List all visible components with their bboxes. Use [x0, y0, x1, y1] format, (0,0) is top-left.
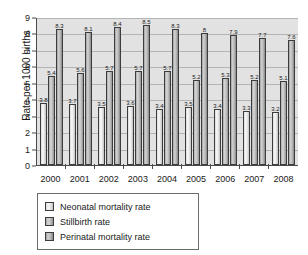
bar-value-label: 8.1 [84, 26, 92, 33]
y-tick-label: 8 [0, 29, 30, 39]
y-tick-label: 5 [0, 79, 30, 89]
x-tick-label: 2000 [36, 167, 65, 189]
bar-value-label: 8.4 [113, 21, 121, 28]
bar[interactable]: 3.4 [214, 109, 221, 165]
legend-label: Perinatal mortality rate [60, 232, 150, 242]
bar-value-label: 5.7 [105, 65, 113, 72]
bar-value-label: 5.7 [134, 65, 142, 72]
bar-value-label: 7.7 [258, 32, 266, 39]
x-tick-label: 2006 [211, 167, 240, 189]
bar-value-label: 3.5 [97, 101, 105, 108]
y-tick-label: 6 [0, 62, 30, 72]
bar[interactable]: 7.7 [259, 38, 266, 165]
bar[interactable]: 5.7 [135, 71, 142, 165]
y-tick-label: 7 [0, 46, 30, 56]
bar-value-label: 3.3 [242, 105, 250, 112]
y-axis-ticks: 0123456789 [0, 18, 36, 166]
bar-value-label: 5.3 [221, 72, 229, 79]
y-tick-label: 2 [0, 128, 30, 138]
bar[interactable]: 3.6 [127, 106, 134, 165]
x-tick-label: 2002 [94, 167, 123, 189]
bar[interactable]: 3.3 [243, 111, 250, 165]
bar-group: 3.65.78.5 [124, 18, 153, 165]
bar[interactable]: 5.1 [280, 81, 287, 165]
bar[interactable]: 5.2 [251, 80, 258, 166]
bar-value-label: 7.6 [287, 34, 295, 41]
bar-value-label: 3.4 [155, 103, 163, 110]
bar[interactable]: 8.4 [114, 27, 121, 165]
plot-area: 3.85.48.33.75.68.13.55.78.43.65.78.53.45… [36, 18, 298, 166]
bar[interactable]: 8.5 [143, 25, 150, 165]
bar-value-label: 5.6 [76, 67, 84, 74]
legend-swatch [45, 202, 54, 211]
bar[interactable]: 7.6 [288, 40, 295, 165]
bar-group: 3.35.27.7 [240, 18, 269, 165]
bar-value-label: 3.7 [68, 98, 76, 105]
bar-value-label: 5.1 [279, 75, 287, 82]
bar[interactable]: 3.5 [98, 107, 105, 165]
bar-group: 3.55.28 [182, 18, 211, 165]
bar-value-label: 8.3 [171, 23, 179, 30]
bar-value-label: 3.5 [184, 101, 192, 108]
x-tick-label: 2004 [152, 167, 181, 189]
x-tick-label: 2005 [182, 167, 211, 189]
bar-value-label: 8.3 [55, 23, 63, 30]
bar-group: 3.45.37.9 [211, 18, 240, 165]
legend-item[interactable]: Stillbirth rate [45, 214, 192, 229]
y-tick-label: 4 [0, 95, 30, 105]
legend-swatch [45, 217, 54, 226]
bar-value-label: 5.2 [250, 74, 258, 81]
y-tick-label: 3 [0, 112, 30, 122]
legend-label: Neonatal mortality rate [60, 202, 151, 212]
bar[interactable]: 3.7 [69, 104, 76, 165]
x-axis-labels: 200020012002200320042005200620072008 [36, 167, 298, 189]
x-tick-label: 2001 [65, 167, 94, 189]
bar-group: 3.75.68.1 [66, 18, 95, 165]
bar[interactable]: 8.3 [172, 29, 179, 165]
bar-value-label: 3.4 [213, 103, 221, 110]
bar-groups: 3.85.48.33.75.68.13.55.78.43.65.78.53.45… [37, 18, 298, 165]
bar-value-label: 7.9 [229, 29, 237, 36]
y-tick-label: 0 [0, 161, 30, 171]
bar[interactable]: 3.2 [272, 112, 279, 165]
bar[interactable]: 8.1 [85, 32, 92, 165]
x-tick-label: 2007 [240, 167, 269, 189]
bar-value-label: 3.2 [271, 106, 279, 113]
bar-group: 3.45.78.3 [153, 18, 182, 165]
bar-value-label: 5.7 [163, 65, 171, 72]
bar[interactable]: 5.7 [164, 71, 171, 165]
bar-value-label: 8 [203, 27, 206, 34]
x-tick-label: 2008 [269, 167, 298, 189]
bar-value-label: 5.4 [47, 70, 55, 77]
bar[interactable]: 8 [201, 33, 208, 165]
bar-value-label: 8.5 [142, 19, 150, 26]
bar-group: 3.25.17.6 [269, 18, 298, 165]
bar-value-label: 3.8 [39, 97, 47, 104]
legend-label: Stillbirth rate [60, 217, 110, 227]
bar[interactable]: 5.6 [77, 73, 84, 165]
bar[interactable]: 8.3 [56, 29, 63, 165]
bar[interactable]: 5.7 [106, 71, 113, 165]
bar-group: 3.85.48.3 [37, 18, 66, 165]
bar[interactable]: 7.9 [230, 35, 237, 165]
legend-swatch [45, 232, 54, 241]
bar[interactable]: 5.4 [48, 76, 55, 165]
chart-legend: Neonatal mortality rateStillbirth ratePe… [37, 193, 199, 250]
legend-item[interactable]: Perinatal mortality rate [45, 229, 192, 244]
bar[interactable]: 5.3 [222, 78, 229, 165]
y-tick-label: 1 [0, 145, 30, 155]
chart-figure: Rate per 1000 births 0123456789 3.85.48.… [0, 0, 308, 255]
bar-value-label: 3.6 [126, 100, 134, 107]
bar[interactable]: 5.2 [193, 80, 200, 166]
bar-group: 3.55.78.4 [95, 18, 124, 165]
bar[interactable]: 3.5 [185, 107, 192, 165]
y-tick-label: 9 [0, 13, 30, 23]
legend-item[interactable]: Neonatal mortality rate [45, 199, 192, 214]
bar-value-label: 5.2 [192, 74, 200, 81]
bar[interactable]: 3.4 [156, 109, 163, 165]
x-tick-label: 2003 [123, 167, 152, 189]
bar[interactable]: 3.8 [40, 103, 47, 165]
